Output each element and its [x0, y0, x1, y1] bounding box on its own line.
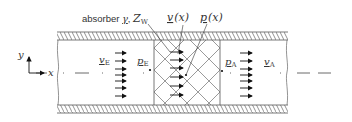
px-label: p(x)	[200, 11, 223, 24]
coordinate-axes: y x	[17, 49, 54, 78]
left-break-line	[57, 40, 58, 105]
flow-arrows-entry	[115, 53, 126, 96]
vx-label: v(x)	[167, 11, 189, 24]
top-wall	[57, 32, 288, 40]
vE-label: vE	[99, 54, 110, 67]
bottom-wall	[57, 105, 288, 113]
duct-diagram: absorber γ, ZW v(x) p(x) vE pE pA vA y x	[0, 0, 352, 122]
flow-arrows-exit	[240, 53, 252, 96]
pA-label: pA	[225, 56, 237, 69]
absorber-label: absorber γ, ZW	[82, 12, 149, 26]
point-pE	[149, 69, 151, 71]
x-axis-label: x	[48, 67, 54, 78]
point-pA	[221, 70, 223, 72]
right-break-line	[286, 40, 287, 105]
y-axis-label: y	[17, 49, 24, 60]
vA-label: vA	[264, 56, 276, 69]
pE-label: pE	[137, 55, 149, 68]
flow-arrows-absorber	[170, 52, 183, 95]
